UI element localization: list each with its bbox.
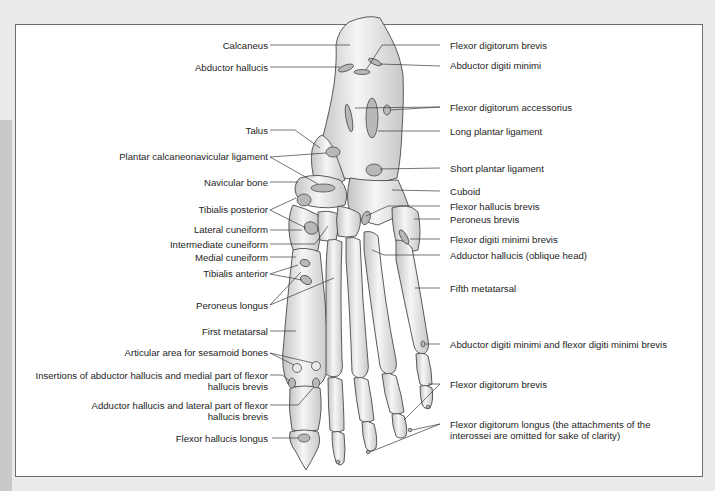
abductor-digiti-minimi-flexor-attachment	[421, 341, 425, 347]
label-flexor-hallucis-brevis: Flexor hallucis brevis	[450, 201, 540, 212]
fdl-toe5	[426, 405, 430, 409]
label-peroneus-longus: Peroneus longus	[196, 300, 268, 311]
third-toe-proximal-phalanx	[354, 377, 374, 422]
label-insertions-abductor-hallucis: Insertions of abductor hallucis and medi…	[18, 370, 268, 392]
label-first-metatarsal: First metatarsal	[202, 326, 268, 337]
label-flexor-digitorum-longus: Flexor digitorum longus (the attachments…	[450, 419, 680, 441]
first-metatarsal-bone	[283, 248, 329, 387]
flexor-digitorum-brevis-attachment	[354, 70, 370, 75]
label-adductor-hallucis-oblique: Adductor hallucis (oblique head)	[450, 250, 587, 261]
fdl-toe4	[408, 428, 412, 432]
fifth-toe-proximal-phalanx	[416, 353, 432, 386]
label-navicular-bone: Navicular bone	[204, 177, 268, 188]
adductor-hallucis-insertion	[313, 378, 320, 388]
label-flexor-digitorum-brevis-bottom: Flexor digitorum brevis	[450, 379, 547, 390]
label-plantar-calcaneonavicular-ligament: Plantar calcaneonavicular ligament	[119, 151, 268, 162]
label-intermediate-cuneiform: Intermediate cuneiform	[170, 239, 268, 250]
fifth-toe-distal-phalanx	[420, 385, 433, 408]
tibialis-posterior-attachment	[297, 194, 311, 206]
label-medial-cuneiform: Medial cuneiform	[195, 252, 268, 263]
label-abductor-digiti-minimi: Abductor digiti minimi	[450, 60, 541, 71]
hallux-proximal-phalanx	[289, 386, 321, 432]
label-tibialis-posterior: Tibialis posterior	[199, 204, 269, 215]
label-lateral-cuneiform: Lateral cuneiform	[194, 224, 268, 235]
short-plantar-ligament-attachment	[366, 164, 382, 176]
label-abductor-digiti-minimi-flexor: Abductor digiti minimi and flexor digiti…	[450, 339, 667, 350]
flexor-digitorum-accessorius-attachment	[384, 105, 391, 115]
label-articular-area-sesamoid: Articular area for sesamoid bones	[125, 347, 268, 358]
abductor-hallucis-insertion	[289, 378, 296, 388]
label-flexor-digitorum-accessorius: Flexor digitorum accessorius	[450, 102, 572, 113]
fdl-toe2	[336, 460, 340, 464]
label-flexor-digitorum-brevis-top: Flexor digitorum brevis	[450, 40, 547, 51]
label-adductor-hallucis-lateral: Adductor hallucis and lateral part of fl…	[68, 400, 268, 422]
fourth-toe-distal-phalanx	[392, 413, 407, 438]
second-toe-proximal-phalanx	[328, 377, 344, 432]
plantar-calcaneonavicular-attachment	[326, 147, 340, 157]
label-talus: Talus	[246, 125, 268, 136]
navicular-attachment	[311, 184, 335, 192]
long-plantar-ligament-attachment	[366, 98, 378, 138]
label-cuboid: Cuboid	[450, 186, 480, 197]
label-tibialis-anterior: Tibialis anterior	[203, 268, 268, 279]
fdl-toe3	[366, 450, 370, 454]
fourth-metatarsal-bone	[364, 232, 396, 375]
label-flexor-digiti-minimi-brevis: Flexor digiti minimi brevis	[450, 234, 558, 245]
label-long-plantar-ligament: Long plantar ligament	[450, 126, 542, 137]
label-flexor-hallucis-longus: Flexor hallucis longus	[176, 433, 268, 444]
label-peroneus-brevis: Peroneus brevis	[450, 214, 519, 225]
label-short-plantar-ligament: Short plantar ligament	[450, 163, 544, 174]
second-metatarsal-bone	[326, 239, 343, 376]
fifth-metatarsal-bone	[396, 240, 429, 354]
flexor-hallucis-longus-attachment	[298, 434, 310, 442]
label-fifth-metatarsal: Fifth metatarsal	[450, 283, 516, 294]
fourth-toe-proximal-phalanx	[382, 373, 404, 414]
label-abductor-hallucis: Abductor hallucis	[195, 62, 268, 73]
label-calcaneus: Calcaneus	[223, 40, 268, 51]
third-toe-distal-phalanx	[362, 421, 377, 451]
